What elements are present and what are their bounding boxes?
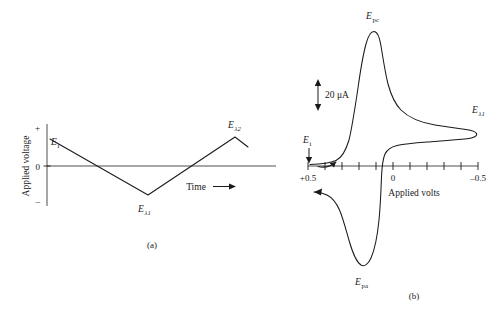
label-e-pc: E pc	[365, 11, 379, 23]
panel-a-ytick-plus: +	[35, 123, 40, 133]
panel-b-caption: (b)	[409, 291, 420, 301]
svg-text:λ1: λ1	[478, 110, 485, 117]
panel-a: + 0 – Applied voltage E i E λ1 E λ2	[21, 120, 276, 250]
svg-text:E: E	[365, 11, 372, 21]
svg-text:E: E	[137, 204, 144, 214]
panel-a-x-axis-title: Time	[186, 182, 206, 192]
svg-text:i: i	[310, 140, 312, 147]
label-e-lambda1-cv: E λ1	[471, 105, 485, 117]
panel-a-ytick-minus: –	[35, 196, 41, 206]
panel-b-xtick-zero: 0	[391, 173, 396, 183]
svg-text:λ1: λ1	[144, 209, 151, 216]
svg-text:λ2: λ2	[234, 125, 242, 132]
panel-b-anodic-sweep	[314, 134, 477, 266]
label-e-initial: E i	[50, 137, 60, 149]
panel-a-y-axis-title: Applied voltage	[21, 136, 31, 197]
svg-text:E: E	[302, 135, 309, 145]
panel-a-ytick-zero-label: 0	[36, 162, 41, 172]
label-e-lambda1: E λ1	[137, 204, 151, 216]
svg-text:E: E	[50, 137, 57, 147]
panel-a-caption: (a)	[147, 240, 157, 250]
panel-b-xtick-pos05: +0.5	[300, 173, 317, 183]
svg-text:E: E	[227, 120, 234, 130]
panel-b-x-axis-title: Applied volts	[388, 188, 440, 198]
label-e-pa: E pa	[354, 277, 368, 289]
e-initial-marker-arrow-icon	[306, 148, 312, 164]
label-e-initial-cv: E i	[302, 135, 312, 147]
scale-bar-arrow-icon	[315, 79, 321, 111]
svg-text:E: E	[471, 105, 478, 115]
svg-text:pc: pc	[373, 16, 379, 23]
svg-text:E: E	[354, 277, 361, 287]
panel-b-xtick-neg05: –0.5	[469, 173, 486, 183]
svg-text:i: i	[58, 142, 60, 149]
anodic-direction-arrow-icon	[314, 189, 322, 196]
figure-container: + 0 – Applied voltage E i E λ1 E λ2	[0, 0, 500, 314]
label-e-lambda2: E λ2	[227, 120, 241, 132]
scale-bar-label: 20 μA	[325, 90, 349, 100]
svg-text:pa: pa	[362, 282, 368, 289]
time-arrow-icon	[213, 184, 236, 190]
panel-b: +0.5 0 –0.5 Applied volts	[300, 11, 487, 301]
figure-svg: + 0 – Applied voltage E i E λ1 E λ2	[0, 0, 500, 314]
